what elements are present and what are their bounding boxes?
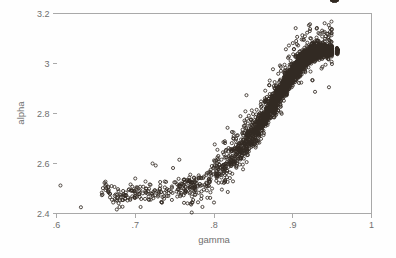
y-axis-title: alpha [15, 101, 26, 125]
x-tick-label: 1 [369, 220, 374, 230]
y-tick-label: 2.6 [37, 159, 50, 169]
scatter-plot-figure: 2.42.62.833.2 .6.7.8.91 gamma alpha [0, 0, 396, 258]
plot-canvas: 2.42.62.833.2 .6.7.8.91 gamma alpha [0, 0, 396, 258]
x-axis-title: gamma [198, 234, 230, 245]
x-tick-label: .6 [53, 220, 61, 230]
y-tick-label: 2.8 [37, 109, 50, 119]
y-tick-label: 3 [44, 59, 49, 69]
x-tick-label: .8 [210, 220, 218, 230]
y-tick-label: 2.4 [37, 209, 50, 219]
x-tick-label: .7 [131, 220, 139, 230]
x-tick-label: .9 [289, 220, 297, 230]
y-tick-label: 3.2 [37, 9, 50, 19]
